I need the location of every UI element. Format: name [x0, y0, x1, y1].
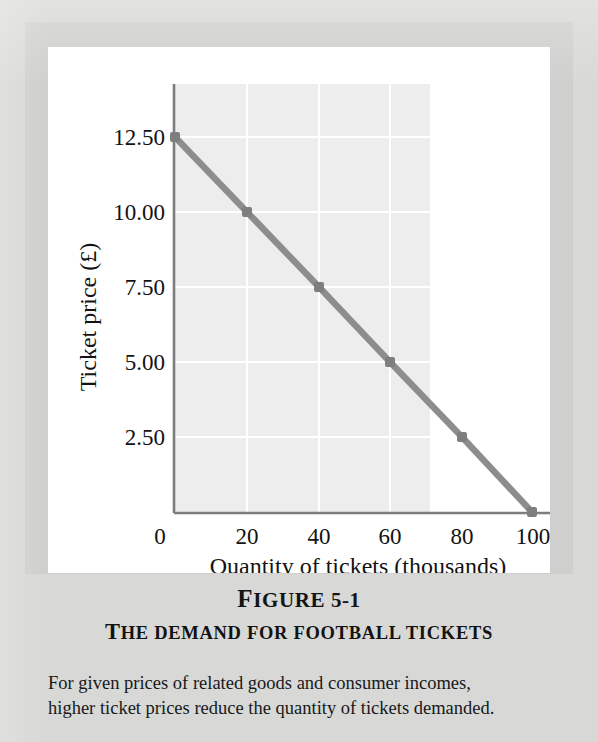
page-background: 12.50 10.00 7.50 5.00 2.50 0 20 40 60 80… [0, 0, 598, 742]
figure-title-initial: T [105, 619, 121, 644]
y-tick-label: 10.00 [113, 200, 165, 225]
x-tick-label: 100 [516, 524, 550, 549]
figure-frame: 12.50 10.00 7.50 5.00 2.50 0 20 40 60 80… [25, 22, 573, 574]
x-tick-labels: 0 20 40 60 80 100 [154, 524, 550, 549]
figure-number-initial: F [237, 585, 253, 612]
x-tick-label: 20 [236, 524, 259, 549]
figure-number: FIGURE 5-1 [0, 586, 598, 613]
y-tick-label: 2.50 [125, 425, 165, 450]
caption-line-1: For given prices of related goods and co… [48, 671, 553, 696]
y-tick-labels: 12.50 10.00 7.50 5.00 2.50 [113, 125, 165, 450]
y-tick-label: 7.50 [125, 275, 165, 300]
caption-line-2: higher ticket prices reduce the quantity… [48, 696, 553, 721]
y-tick-label: 12.50 [113, 125, 165, 150]
plot-area-background [175, 84, 430, 512]
figure-inner-panel: 12.50 10.00 7.50 5.00 2.50 0 20 40 60 80… [48, 47, 550, 573]
chart-svg: 12.50 10.00 7.50 5.00 2.50 0 20 40 60 80… [48, 47, 550, 573]
figure-title: THE DEMAND FOR FOOTBALL TICKETS [0, 620, 598, 645]
x-tick-label: 40 [308, 524, 331, 549]
x-tick-label: 80 [451, 524, 474, 549]
figure-caption-text: For given prices of related goods and co… [48, 671, 553, 721]
figure-caption-block: FIGURE 5-1 THE DEMAND FOR FOOTBALL TICKE… [0, 586, 598, 645]
figure-title-rest: HE DEMAND FOR FOOTBALL TICKETS [121, 623, 493, 643]
demand-curve-chart: 12.50 10.00 7.50 5.00 2.50 0 20 40 60 80… [48, 47, 550, 573]
x-axis-title: Quantity of tickets (thousands) [210, 553, 507, 573]
y-axis-title: Ticket price (£) [75, 243, 101, 391]
x-tick-label: 0 [154, 524, 166, 549]
figure-number-rest: IGURE 5-1 [253, 588, 361, 612]
y-tick-label: 5.00 [125, 350, 165, 375]
x-tick-label: 60 [379, 524, 402, 549]
